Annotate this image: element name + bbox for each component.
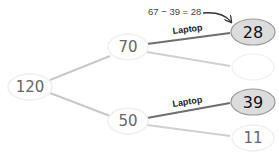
- svg-text:11: 11: [243, 129, 262, 147]
- node-upper-laptop: 28: [231, 19, 275, 45]
- edge-label-upper-laptop: Laptop: [172, 22, 203, 36]
- svg-text:70: 70: [118, 38, 137, 56]
- edge-label-lower-laptop: Laptop: [172, 94, 204, 109]
- svg-text:50: 50: [118, 112, 137, 130]
- edge-root-lower: [50, 93, 110, 116]
- edge-upper-other: [147, 52, 230, 66]
- svg-text:120: 120: [16, 78, 45, 96]
- node-lower: 50: [108, 108, 148, 134]
- node-lower-other: 11: [232, 125, 274, 151]
- annotation-text: 67 − 39 = 28: [148, 6, 201, 17]
- tree-diagram: Laptop Laptop 67 − 39 = 28 120 70 50 28 …: [0, 0, 279, 159]
- annotation-arrow-icon: [203, 13, 231, 22]
- svg-text:28: 28: [243, 23, 263, 42]
- node-lower-laptop: 39: [231, 89, 275, 115]
- node-root: 120: [8, 74, 52, 100]
- node-upper: 70: [108, 34, 148, 60]
- edge-root-upper: [50, 56, 110, 80]
- edge-lower-other: [147, 125, 230, 136]
- edge-upper-laptop: [147, 33, 230, 44]
- svg-text:39: 39: [243, 93, 263, 112]
